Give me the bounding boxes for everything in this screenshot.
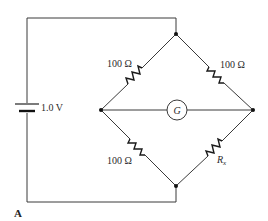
battery-icon (15, 104, 39, 111)
resistor-top-right (176, 34, 253, 110)
panel-label: A (14, 207, 22, 219)
galvanometer-label: G (173, 105, 180, 116)
node-left (99, 108, 103, 112)
resistor-top-left (101, 34, 176, 110)
node-bottom (174, 184, 178, 188)
resistor-bottom-right (176, 110, 253, 186)
resistor-bottom-left (101, 110, 176, 186)
resistor-top-right-label: 100 Ω (220, 59, 245, 70)
node-top (174, 32, 178, 36)
battery-voltage-label: 1.0 V (41, 102, 64, 113)
node-right (251, 108, 255, 112)
top-wire (27, 18, 176, 103)
bottom-wire (27, 113, 176, 202)
resistor-top-left-label: 100 Ω (107, 58, 132, 69)
resistor-zigzag-icon (128, 139, 145, 155)
resistor-bottom-left-label: 100 Ω (107, 155, 132, 166)
resistor-bottom-right-label: Rx (216, 154, 227, 167)
circuit-diagram: 1.0 V 100 Ω 100 Ω 100 Ω Rx G A (0, 0, 268, 221)
